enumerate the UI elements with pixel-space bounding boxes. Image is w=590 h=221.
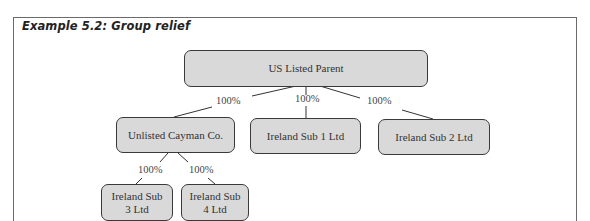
node-ireland-sub-2: Ireland Sub 2 Ltd [378, 119, 490, 155]
edge-label-cayman-sub3: 100% [138, 164, 163, 175]
node-label: Unlisted Cayman Co. [128, 129, 223, 142]
edge-parent-cayman-upper [252, 86, 296, 96]
node-label: Ireland Sub 1 Ltd [267, 130, 344, 143]
node-label: US Listed Parent [268, 62, 343, 75]
edge-parent-sub2-lower [402, 110, 433, 119]
edge-cayman-sub3-upper [160, 153, 168, 162]
node-unlisted-cayman: Unlisted Cayman Co. [116, 117, 235, 153]
node-ireland-sub-1: Ireland Sub 1 Ltd [250, 118, 361, 154]
node-us-listed-parent: US Listed Parent [184, 50, 428, 87]
edge-label-parent-sub1: 100% [295, 93, 320, 104]
edge-label-cayman-sub4: 100% [189, 164, 214, 175]
connector-lines [0, 0, 590, 221]
node-label-line1: Ireland Sub [189, 190, 240, 203]
node-ireland-sub-3: Ireland Sub 3 Ltd [101, 184, 173, 221]
edge-label-parent-cayman: 100% [216, 95, 241, 106]
node-ireland-sub-4: Ireland Sub 4 Ltd [181, 184, 249, 221]
node-label-line1: Ireland Sub [111, 190, 162, 203]
node-label: Ireland Sub 2 Ltd [395, 131, 472, 144]
node-label-line2: 3 Ltd [125, 203, 149, 216]
edge-cayman-sub4-upper [178, 153, 188, 162]
edge-parent-sub2-upper [320, 86, 360, 98]
node-label-line2: 4 Ltd [203, 203, 227, 216]
edge-label-parent-sub2: 100% [367, 95, 392, 106]
edge-parent-cayman-lower [174, 107, 212, 117]
